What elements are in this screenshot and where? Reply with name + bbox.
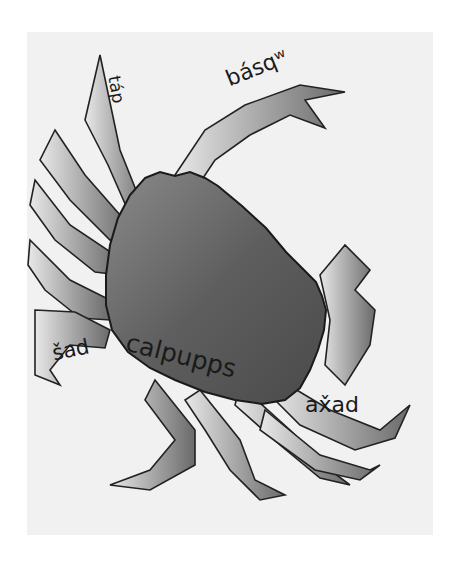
side-claw — [320, 245, 375, 385]
top-claw — [175, 85, 345, 190]
label-legs: ax̌ad — [305, 392, 359, 417]
